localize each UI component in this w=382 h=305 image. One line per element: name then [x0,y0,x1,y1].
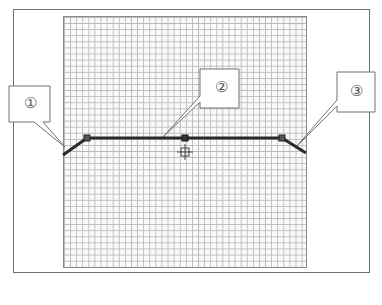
callout-label-3: ③ [344,84,368,99]
diagram-overlay [0,0,382,305]
callout-label-1: ① [18,96,42,111]
callout-label-2: ② [209,80,233,95]
node-handle-left[interactable] [84,135,90,141]
node-handle-center[interactable] [182,135,188,141]
crosshair-icon[interactable] [177,144,193,160]
node-handle-right[interactable] [279,135,285,141]
